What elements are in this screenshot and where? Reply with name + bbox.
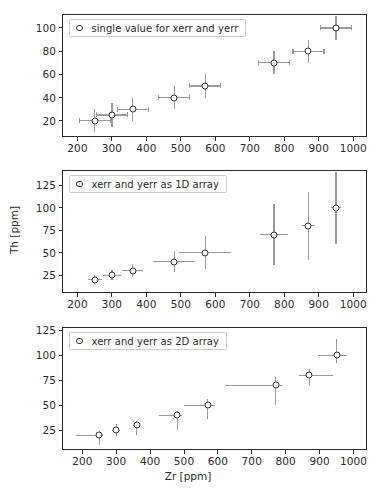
x-tick-label: 1000 [340, 298, 367, 310]
x-tick [285, 450, 286, 454]
x-tick-label: 600 [205, 298, 225, 310]
matplotlib-figure: single value for xerr and yerr 200300400… [0, 0, 376, 494]
x-tick-label: 200 [67, 142, 87, 154]
y-tick [59, 355, 63, 356]
data-point [174, 412, 181, 419]
legend-marker-icon [76, 181, 83, 188]
x-tick [111, 137, 112, 141]
errorbar-cap [148, 107, 149, 112]
x-tick-label: 900 [309, 298, 329, 310]
x-tick-label: 700 [240, 142, 260, 154]
errorbar-cap [96, 112, 97, 117]
legend-top: single value for xerr and yerr [69, 19, 246, 37]
y-tick [59, 97, 63, 98]
legend-middle: xerr and yerr as 1D array [69, 175, 227, 193]
data-point [91, 117, 98, 124]
x-axis-label: Zr [ppm] [0, 470, 376, 482]
chart-panel-top: single value for xerr and yerr [62, 14, 367, 137]
y-tick [59, 207, 63, 208]
y-tick [59, 380, 63, 381]
x-tick-label: 800 [275, 455, 295, 467]
y-tick [59, 51, 63, 52]
y-tick-label: 60 [20, 68, 56, 80]
x-tick [111, 293, 112, 297]
y-tick-label: 125 [20, 324, 56, 336]
y-tick [59, 252, 63, 253]
x-tick-label: 500 [174, 455, 194, 467]
y-tick-label: 25 [20, 424, 56, 436]
legend-bottom: xerr and yerr as 2D array [69, 332, 227, 350]
y-tick-label: 20 [20, 115, 56, 127]
x-tick [353, 450, 354, 454]
data-point [332, 204, 339, 211]
errorbar-cap [323, 49, 324, 54]
y-tick-label: 25 [20, 269, 56, 281]
x-tick [251, 450, 252, 454]
chart-panel-bottom: xerr and yerr as 2D array [62, 327, 367, 450]
data-point [91, 276, 98, 283]
data-point [129, 267, 136, 274]
y-tick-label: 100 [20, 202, 56, 214]
legend-label-top: single value for xerr and yerr [92, 23, 239, 34]
x-tick [77, 137, 78, 141]
x-tick [319, 450, 320, 454]
x-tick-label: 400 [136, 298, 156, 310]
errorbar-cap [220, 83, 221, 88]
y-tick-label: 75 [20, 374, 56, 386]
errorbar-cap [158, 95, 159, 100]
data-point [133, 422, 140, 429]
x-tick-label: 700 [240, 298, 260, 310]
y-tick-label: 50 [20, 247, 56, 259]
data-point [204, 402, 211, 409]
y-tick [59, 405, 63, 406]
y-tick [59, 120, 63, 121]
x-tick [116, 450, 117, 454]
x-tick [215, 137, 216, 141]
data-point [202, 82, 209, 89]
clipped-top-text [4, 0, 304, 4]
data-point [108, 272, 115, 279]
x-tick-label: 1000 [340, 455, 367, 467]
legend-label-middle: xerr and yerr as 1D array [92, 179, 220, 190]
y-tick [59, 275, 63, 276]
errorbar-cap [320, 25, 321, 30]
x-tick-label: 1000 [340, 142, 367, 154]
errorbar-cap [258, 60, 259, 65]
legend-label-bottom: xerr and yerr as 2D array [92, 336, 220, 347]
y-axis-label: Th [ppm] [8, 200, 20, 260]
x-tick-label: 500 [171, 298, 191, 310]
x-tick-label: 500 [171, 142, 191, 154]
x-tick [284, 137, 285, 141]
x-tick-label: 300 [106, 455, 126, 467]
x-tick-label: 900 [309, 142, 329, 154]
data-point [305, 48, 312, 55]
y-tick-label: 100 [20, 349, 56, 361]
data-point [96, 432, 103, 439]
errorbar-cap [79, 118, 80, 123]
x-tick [318, 137, 319, 141]
data-point [332, 24, 339, 31]
errorbar-x [299, 375, 333, 376]
y-tick [59, 330, 63, 331]
data-point [171, 258, 178, 265]
x-tick-label: 300 [102, 142, 122, 154]
x-tick [146, 293, 147, 297]
data-point [306, 372, 313, 379]
data-point [270, 59, 277, 66]
x-tick [150, 450, 151, 454]
x-tick [217, 450, 218, 454]
y-tick-label: 50 [20, 399, 56, 411]
y-tick-label: 40 [20, 92, 56, 104]
x-tick-label: 800 [274, 142, 294, 154]
x-tick [180, 137, 181, 141]
x-tick [77, 293, 78, 297]
chart-panel-middle: xerr and yerr as 1D array [62, 170, 367, 293]
errorbar-cap [189, 95, 190, 100]
x-tick [215, 293, 216, 297]
y-tick-label: 125 [20, 179, 56, 191]
y-tick [59, 185, 63, 186]
x-tick-label: 700 [242, 455, 262, 467]
x-tick-label: 300 [102, 298, 122, 310]
x-tick [82, 450, 83, 454]
x-tick [146, 137, 147, 141]
